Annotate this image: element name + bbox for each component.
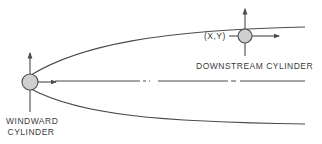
downstream-cylinder-icon (238, 29, 252, 43)
windward-cylinder-icon (22, 74, 38, 90)
downstream-cylinder-label: DOWNSTREAM CYLINDER (196, 61, 313, 71)
windward-label-line2: CYLINDER (6, 127, 56, 137)
downstream-cylinder (229, 9, 279, 56)
windward-label-line1: WINDWARD (6, 116, 56, 126)
wake-diagram: (X,Y) DOWNSTREAM CYLINDER WINDWARD CYLIN… (0, 0, 322, 144)
position-label: (X,Y) (204, 31, 226, 41)
wake-lower-boundary (31, 89, 305, 124)
windward-cylinder (22, 53, 56, 112)
